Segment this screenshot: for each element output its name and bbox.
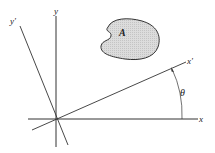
area-label: A — [118, 27, 126, 38]
x-prime-axis — [32, 62, 186, 130]
x-label: x — [198, 114, 203, 124]
y-label: y — [53, 6, 58, 16]
y-prime-label: y' — [9, 16, 17, 26]
x-prime-label: x' — [186, 56, 194, 66]
y-prime-axis — [20, 26, 68, 145]
axes-diagram: y y' x x' A θ — [0, 0, 215, 153]
area-region — [101, 19, 159, 60]
theta-label: θ — [180, 87, 185, 98]
